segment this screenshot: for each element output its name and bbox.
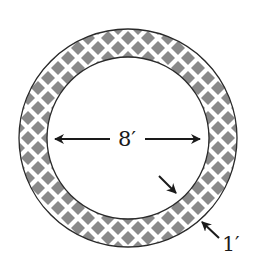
ring-diagram: 8′ 1′ — [0, 0, 259, 267]
ring-width-label: 1′ — [222, 232, 240, 256]
diameter-label: 8′ — [118, 127, 136, 151]
